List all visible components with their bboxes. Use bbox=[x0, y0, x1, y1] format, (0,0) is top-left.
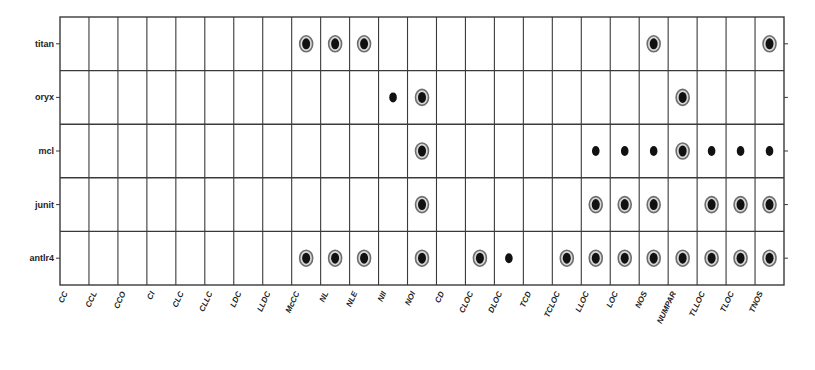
x-label-noi: NOI bbox=[403, 289, 417, 306]
x-label-loc: LOC bbox=[605, 290, 620, 309]
ring-marker bbox=[473, 250, 486, 266]
ring-marker bbox=[676, 250, 689, 266]
x-label-cllc: CLLC bbox=[197, 290, 214, 313]
y-label-titan: titan bbox=[35, 39, 54, 49]
ring-marker bbox=[647, 250, 660, 266]
ring-marker bbox=[300, 250, 313, 266]
x-label-ci: CI bbox=[145, 289, 157, 301]
ring-marker bbox=[300, 36, 313, 52]
ring-marker bbox=[589, 197, 602, 213]
dot-marker bbox=[389, 92, 397, 102]
dot-marker bbox=[650, 146, 658, 156]
ring-marker bbox=[618, 197, 631, 213]
x-label-tloc: TLOC bbox=[719, 290, 736, 314]
dot-marker bbox=[737, 146, 745, 156]
y-label-junit: junit bbox=[34, 200, 54, 210]
x-label-nle: NLE bbox=[344, 289, 359, 308]
x-label-ccl: CCL bbox=[84, 290, 99, 309]
ring-marker bbox=[358, 36, 371, 52]
ring-marker bbox=[763, 250, 776, 266]
ring-marker bbox=[416, 143, 429, 159]
dot-marker bbox=[592, 146, 600, 156]
x-axis-labels: CCCCLCCOCICLCCLLCLDCLLDCMcCCNLNLENIINOIC… bbox=[57, 289, 765, 325]
dot-marker bbox=[766, 146, 774, 156]
ring-marker bbox=[358, 250, 371, 266]
y-label-oryx: oryx bbox=[35, 92, 54, 102]
ring-marker bbox=[589, 250, 602, 266]
x-label-tnos: TNOS bbox=[747, 289, 765, 314]
dot-marker bbox=[708, 146, 716, 156]
ring-marker bbox=[705, 250, 718, 266]
x-label-tcloc: TCLOC bbox=[542, 290, 562, 319]
ring-marker bbox=[647, 197, 660, 213]
x-label-cco: CCO bbox=[112, 289, 128, 310]
ring-marker bbox=[676, 89, 689, 105]
x-label-nl: NL bbox=[318, 290, 331, 304]
ring-marker bbox=[763, 36, 776, 52]
x-label-tlloc: TLLOC bbox=[688, 290, 708, 318]
x-label-ldc: LDC bbox=[228, 290, 243, 309]
x-label-cd: CD bbox=[433, 290, 446, 304]
dot-marker bbox=[505, 253, 513, 263]
ring-marker bbox=[676, 143, 689, 159]
x-label-lloc: LLOC bbox=[574, 290, 591, 314]
x-label-clc: CLC bbox=[171, 290, 186, 309]
x-label-numpar: NUMPAR bbox=[655, 290, 678, 325]
ring-marker bbox=[416, 197, 429, 213]
x-label-lldc: LLDC bbox=[255, 290, 272, 313]
ring-marker bbox=[416, 89, 429, 105]
metric-matrix-chart: titanoryxmcljunitantlr4 CCCCLCCOCICLCCLL… bbox=[0, 0, 815, 370]
y-label-antlr4: antlr4 bbox=[29, 253, 54, 263]
x-label-nii: NII bbox=[376, 289, 389, 303]
ring-marker bbox=[705, 197, 718, 213]
y-label-mcl: mcl bbox=[38, 146, 54, 156]
ring-marker bbox=[560, 250, 573, 266]
x-label-cc: CC bbox=[57, 290, 70, 304]
ring-marker bbox=[416, 250, 429, 266]
ring-marker bbox=[618, 250, 631, 266]
dot-marker bbox=[621, 146, 629, 156]
ring-marker bbox=[647, 36, 660, 52]
x-label-tcd: TCD bbox=[518, 290, 533, 309]
ring-marker bbox=[329, 250, 342, 266]
x-label-dloc: DLOC bbox=[486, 290, 504, 315]
ring-marker bbox=[734, 197, 747, 213]
ring-marker bbox=[734, 250, 747, 266]
y-axis-labels: titanoryxmcljunitantlr4 bbox=[29, 39, 788, 263]
x-label-nos: NOS bbox=[634, 289, 650, 309]
x-label-cloc: CLOC bbox=[458, 290, 476, 315]
ring-marker bbox=[329, 36, 342, 52]
ring-marker bbox=[763, 197, 776, 213]
x-label-mccc: McCC bbox=[284, 290, 302, 315]
